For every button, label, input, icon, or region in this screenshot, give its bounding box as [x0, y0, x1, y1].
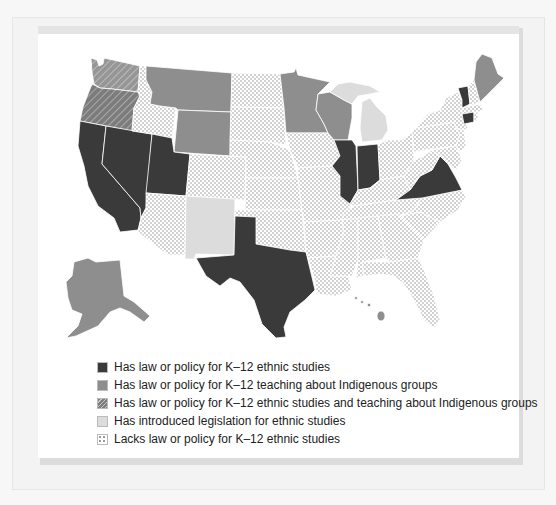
state-montana	[146, 66, 232, 112]
legend-item-both: Has law or policy for K–12 ethnic studie…	[97, 394, 538, 412]
swatch-lacks	[97, 434, 108, 445]
state-kansas	[245, 178, 302, 210]
state-colorado	[186, 154, 246, 200]
legend-label: Has law or policy for K–12 teaching abou…	[114, 378, 438, 392]
legend-label: Has law or policy for K–12 ethnic studie…	[114, 396, 538, 410]
state-maine	[474, 54, 504, 102]
swatch-ethnic-studies	[97, 362, 108, 373]
state-rhode-island	[474, 112, 478, 122]
swatch-both	[97, 398, 108, 409]
legend-item-lacks: Lacks law or policy for K–12 ethnic stud…	[97, 430, 538, 448]
legend-item-ethnic-studies: Has law or policy for K–12 ethnic studie…	[97, 358, 538, 376]
legend-label: Lacks law or policy for K–12 ethnic stud…	[114, 432, 340, 446]
state-iowa	[286, 133, 340, 168]
legend-item-indigenous: Has law or policy for K–12 teaching abou…	[97, 376, 538, 394]
state-alaska	[66, 258, 150, 338]
state-new-mexico	[185, 196, 235, 259]
state-michigan-lower	[360, 98, 388, 142]
legend: Has law or policy for K–12 ethnic studie…	[97, 358, 538, 448]
legend-label: Has introduced legislation for ethnic st…	[114, 414, 345, 428]
state-south-dakota	[230, 107, 286, 145]
state-connecticut	[462, 112, 474, 124]
state-north-dakota	[231, 73, 284, 108]
state-florida	[362, 258, 440, 328]
state-wyoming	[174, 110, 231, 156]
swatch-indigenous	[97, 380, 108, 391]
swatch-introduced	[97, 416, 108, 427]
state-hawaii	[355, 297, 386, 322]
legend-item-introduced: Has introduced legislation for ethnic st…	[97, 412, 538, 430]
legend-label: Has law or policy for K–12 ethnic studie…	[114, 360, 330, 374]
